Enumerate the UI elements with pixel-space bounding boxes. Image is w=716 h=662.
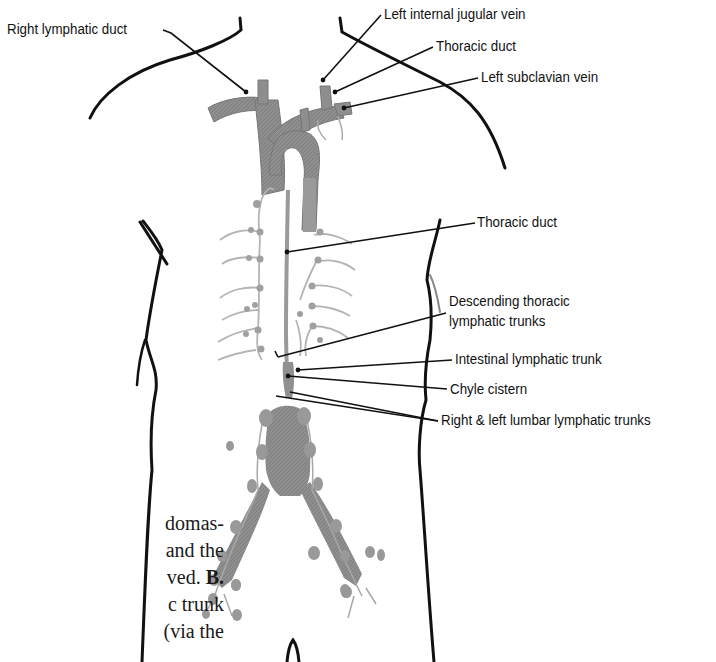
- label-lumbar-lymphatic-trunks: Right & left lumbar lymphatic trunks: [441, 411, 651, 429]
- label-descending-thoracic-2: lymphatic trunks: [449, 312, 545, 330]
- label-thoracic-duct-mid: Thoracic duct: [477, 213, 557, 231]
- left-jugular-stub: [320, 86, 332, 110]
- leader-right-lymphatic-duct: [163, 30, 246, 92]
- label-thoracic-duct-upper: Thoracic duct: [436, 37, 516, 55]
- figure-caption-fragment: domas- and the ved. B. c trunk (via the: [0, 510, 224, 645]
- label-right-lymphatic-duct: Right lymphatic duct: [7, 20, 127, 38]
- leader-lumbar-trunks-left: [290, 392, 438, 421]
- caption-line: c trunk: [0, 591, 224, 618]
- caption-line: ved. B.: [0, 564, 224, 591]
- leader-chyle-cistern: [288, 376, 447, 389]
- great-vessels: [208, 80, 352, 230]
- crotch-outline: [287, 640, 299, 662]
- descending-aorta: [303, 178, 316, 232]
- leader-descending-thoracic-trunks: [278, 313, 446, 357]
- label-chyle-cistern: Chyle cistern: [450, 380, 527, 398]
- caption-line: domas-: [0, 510, 224, 537]
- iliac-vessels: [212, 406, 362, 588]
- right-jugular-stub: [258, 80, 268, 104]
- caption-line: (via the: [0, 618, 224, 645]
- left-common-iliac: [300, 482, 362, 586]
- label-descending-thoracic-1: Descending thoracic: [449, 292, 570, 310]
- label-left-subclavian-vein: Left subclavian vein: [481, 68, 598, 86]
- arch-branch: [300, 108, 310, 132]
- intercostal-lymphatics-left: [296, 234, 355, 356]
- arm-right-inner: [137, 340, 145, 385]
- label-intestinal-lymphatic-trunk: Intestinal lymphatic trunk: [455, 350, 602, 368]
- thoracic-duct-vessel: [286, 190, 288, 380]
- torso-left-outline: [419, 220, 440, 662]
- leader-intestinal-lymphatic-trunk: [298, 360, 452, 370]
- caption-line: and the: [0, 537, 224, 564]
- label-left-internal-jugular-vein: Left internal jugular vein: [384, 5, 526, 23]
